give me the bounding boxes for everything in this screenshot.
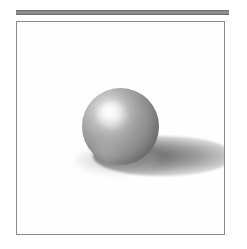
horizontal-rule [16,10,229,15]
shaded-sphere [82,88,159,165]
render-canvas: Gray shaded sphere resting on a white gr… [17,22,224,234]
image-frame: Gray shaded sphere resting on a white gr… [16,21,225,235]
figure-page: Gray shaded sphere resting on a white gr… [0,0,247,249]
